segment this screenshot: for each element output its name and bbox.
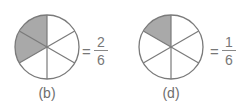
equals-sign: =: [210, 44, 219, 59]
pie-chart-b: [13, 13, 81, 81]
figure-label: (d): [151, 85, 191, 101]
figure-label: (b): [27, 85, 67, 101]
shaded-sector: [143, 15, 171, 47]
fraction-bar: [222, 50, 236, 51]
fraction-d: 1 6: [222, 35, 236, 67]
denominator: 6: [222, 53, 236, 67]
equals-sign: =: [82, 44, 91, 59]
numerator: 1: [222, 35, 236, 49]
denominator: 6: [94, 53, 108, 67]
numerator: 2: [94, 35, 108, 49]
fraction-b: 2 6: [94, 35, 108, 67]
fraction-bar: [94, 50, 108, 51]
pie-chart-d: [137, 13, 205, 81]
